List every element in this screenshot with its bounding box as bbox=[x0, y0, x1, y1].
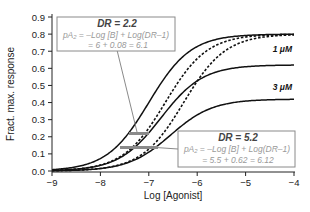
annotation-result: = 5.5 + 0.62 = 6.12 bbox=[202, 155, 274, 165]
y-tick-label: 0.5 bbox=[32, 80, 45, 91]
marker-dr-2-2 bbox=[129, 132, 149, 135]
x-axis-title: Log [Agonist] bbox=[144, 190, 203, 201]
y-tick-label: 0.6 bbox=[32, 63, 45, 74]
x-tick-label: −9 bbox=[47, 177, 58, 188]
annotation-result: = 6 + 0.08 = 6.1 bbox=[88, 40, 148, 50]
y-tick-label: 0.8 bbox=[32, 29, 45, 40]
x-tick-label: −7 bbox=[143, 177, 154, 188]
y-tick-label: 0.7 bbox=[32, 46, 45, 57]
x-axis: −9−8−7−6−5−4 bbox=[47, 172, 300, 188]
curve-label-1uM: 1 μM bbox=[273, 44, 293, 54]
y-tick-label: 0.2 bbox=[32, 131, 45, 142]
annotation-title: DR = 5.2 bbox=[218, 132, 258, 143]
annotation-equation: pA₂ = –Log [B] + Log(DR–1) bbox=[62, 30, 169, 40]
leader-line-dr-5-2 bbox=[156, 148, 178, 150]
annotation-dr-2-2: DR = 2.2 pA₂ = –Log [B] + Log(DR–1) = 6 … bbox=[57, 17, 175, 51]
y-tick-label: 0.4 bbox=[32, 97, 45, 108]
x-tick-label: −6 bbox=[192, 177, 203, 188]
annotation-dr-5-2: DR = 5.2 pA₂ = –Log [B] + Log(DR–1) = 5.… bbox=[178, 131, 295, 167]
y-tick-label: 0.1 bbox=[32, 148, 45, 159]
leader-line-dr-2-2 bbox=[117, 50, 137, 132]
y-tick-label: 0.9 bbox=[32, 12, 45, 23]
annotation-title: DR = 2.2 bbox=[97, 18, 137, 29]
x-tick-label: −8 bbox=[95, 177, 106, 188]
x-tick-label: −4 bbox=[289, 177, 300, 188]
annotation-equation: pA₂ = –Log [B] + Log(DR–1) bbox=[183, 144, 290, 154]
schild-chart: 0.00.10.20.30.40.50.60.70.80.9 −9−8−7−6−… bbox=[0, 0, 310, 212]
curve-label-3uM: 3 μM bbox=[273, 82, 293, 92]
marker-dr-5-2 bbox=[120, 146, 158, 149]
x-tick-label: −5 bbox=[240, 177, 251, 188]
y-axis: 0.00.10.20.30.40.50.60.70.80.9 bbox=[32, 12, 52, 177]
y-tick-label: 0.0 bbox=[32, 166, 45, 177]
y-tick-label: 0.3 bbox=[32, 114, 45, 125]
y-axis-title: Fract. max. response bbox=[5, 47, 16, 141]
